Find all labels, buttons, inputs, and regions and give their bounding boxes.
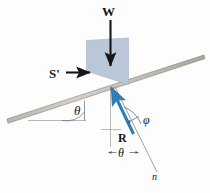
- friction-angle-leader: [128, 117, 140, 123]
- normal-angle-label: θ: [118, 147, 124, 159]
- diagram-canvas: [0, 0, 210, 193]
- incline-angle-label: θ: [74, 104, 80, 117]
- applied-force-label: S': [49, 67, 60, 80]
- normal-axis-label: n: [152, 172, 157, 182]
- friction-angle-label: φ: [143, 114, 150, 126]
- resultant-label: R: [118, 132, 127, 144]
- block-body: [87, 38, 129, 85]
- physics-diagram: W S' R θ θ φ n: [0, 0, 210, 193]
- resultant-force-vector: [112, 88, 134, 134]
- weight-label: W: [102, 5, 115, 18]
